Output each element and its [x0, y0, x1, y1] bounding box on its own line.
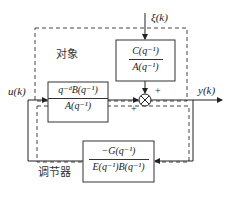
input-label: u(k): [8, 86, 26, 97]
controller-numerator: −G(q⁻¹): [101, 146, 137, 157]
disturbance-label: ξ(k): [151, 12, 168, 23]
fraction-bar: [129, 59, 163, 60]
plant-label: 对象: [56, 49, 78, 60]
sum-left-sign: +: [131, 104, 137, 114]
noise-transfer-function: C(q⁻¹) A(q⁻¹): [116, 46, 175, 72]
noise-denominator: A(q⁻¹): [131, 62, 159, 73]
fraction-bar: [48, 98, 108, 99]
output-label: y(k): [198, 85, 215, 96]
noise-numerator: C(q⁻¹): [131, 46, 160, 57]
sum-top-sign: +: [155, 86, 161, 96]
controller-transfer-function: −G(q⁻¹) E(q⁻¹)B(q⁻¹): [83, 146, 154, 172]
diagram-lines: [0, 0, 227, 206]
fraction-bar: [89, 159, 149, 160]
controller-label: 调节器: [38, 167, 71, 178]
controller-denominator: E(q⁻¹)B(q⁻¹): [91, 162, 145, 173]
plant-transfer-function: q⁻ᵈB(q⁻¹) A(q⁻¹): [48, 85, 108, 111]
plant-denominator: A(q⁻¹): [64, 101, 92, 112]
plant-numerator: q⁻ᵈB(q⁻¹): [57, 85, 98, 96]
